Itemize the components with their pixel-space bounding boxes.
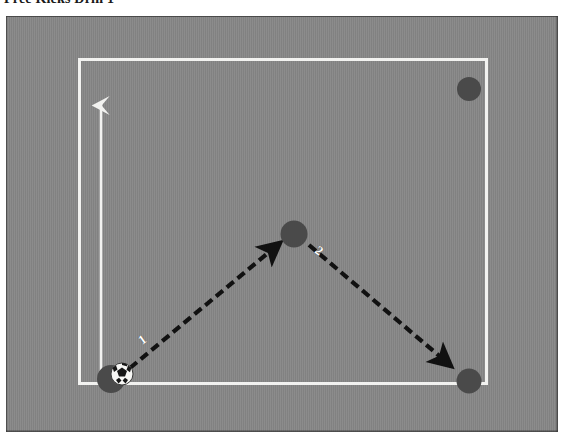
- page-title: Free Kicks Drill 1: [4, 0, 114, 6]
- player-marker-top-right: [457, 77, 481, 101]
- pass-arrow-1: [130, 243, 280, 368]
- play-overlay: [6, 16, 558, 432]
- player-marker-bottom-right: [457, 369, 482, 394]
- player-marker-mid: [281, 221, 308, 248]
- pass-arrow-2: [309, 245, 451, 366]
- soccer-drill-diagram: 1 2: [6, 16, 558, 432]
